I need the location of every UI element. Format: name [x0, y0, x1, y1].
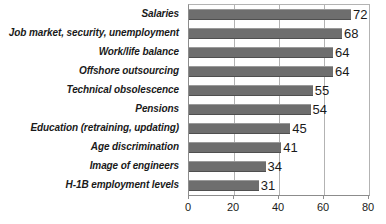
- category-label-row: Offshore outsourcing: [0, 61, 183, 80]
- axis-tick-mark: [278, 195, 279, 199]
- bar: [189, 142, 281, 153]
- axis-tick-mark: [233, 195, 234, 199]
- category-label: Image of engineers: [90, 160, 179, 171]
- category-label: Age discrimination: [91, 141, 179, 152]
- plot-area: 72686464555445413431: [188, 4, 370, 196]
- bar: [189, 161, 266, 172]
- category-label: Work/life balance: [99, 46, 179, 57]
- category-label-row: Job market, security, unemployment: [0, 23, 183, 42]
- axis-tick-label: 40: [272, 201, 284, 213]
- bar-row: 64: [189, 43, 369, 62]
- category-label-row: Salaries: [0, 4, 183, 23]
- category-label: Job market, security, unemployment: [9, 27, 179, 38]
- bar-value-label: 31: [261, 179, 275, 192]
- bars-layer: 72686464555445413431: [189, 5, 369, 195]
- category-label-row: Work/life balance: [0, 42, 183, 61]
- bar-chart: SalariesJob market, security, unemployme…: [0, 0, 386, 224]
- category-label-row: Image of engineers: [0, 156, 183, 175]
- category-label-row: H-1B employment levels: [0, 175, 183, 194]
- bar-value-label: 64: [335, 46, 349, 59]
- bar-value-label: 55: [315, 84, 329, 97]
- axis-tick-mark: [323, 195, 324, 199]
- bar-row: 68: [189, 24, 369, 43]
- bar-value-label: 64: [335, 65, 349, 78]
- bar-value-label: 72: [353, 8, 367, 21]
- bar: [189, 28, 342, 39]
- category-label: Technical obsolescence: [67, 84, 179, 95]
- axis-tick-label: 20: [227, 201, 239, 213]
- bar: [189, 104, 311, 115]
- category-label: H-1B employment levels: [66, 179, 179, 190]
- axis-tick-label: 0: [185, 201, 191, 213]
- bar-row: 55: [189, 81, 369, 100]
- category-label: Education (retraining, updating): [31, 122, 179, 133]
- bar: [189, 123, 290, 134]
- bar: [189, 66, 333, 77]
- bar: [189, 85, 313, 96]
- bar-value-label: 68: [344, 27, 358, 40]
- category-label-row: Technical obsolescence: [0, 80, 183, 99]
- bar-value-label: 45: [292, 122, 306, 135]
- bar-row: 45: [189, 119, 369, 138]
- category-label: Salaries: [141, 8, 179, 19]
- category-label-row: Education (retraining, updating): [0, 118, 183, 137]
- category-label: Offshore outsourcing: [79, 65, 179, 76]
- bar: [189, 180, 259, 191]
- bar-value-label: 34: [268, 160, 282, 173]
- category-label-row: Pensions: [0, 99, 183, 118]
- bar: [189, 9, 351, 20]
- axis-tick-label: 80: [362, 201, 374, 213]
- bar-row: 34: [189, 157, 369, 176]
- axis-tick-mark: [368, 195, 369, 199]
- bar-row: 41: [189, 138, 369, 157]
- category-label-row: Age discrimination: [0, 137, 183, 156]
- bar-row: 64: [189, 62, 369, 81]
- bar-value-label: 54: [313, 103, 327, 116]
- bar-row: 54: [189, 100, 369, 119]
- category-label: Pensions: [135, 103, 179, 114]
- bar-row: 31: [189, 176, 369, 195]
- bar-value-label: 41: [283, 141, 297, 154]
- category-axis: SalariesJob market, security, unemployme…: [0, 4, 183, 194]
- value-axis: 020406080: [188, 195, 369, 224]
- bar: [189, 47, 333, 58]
- axis-tick-mark: [188, 195, 189, 199]
- bar-row: 72: [189, 5, 369, 24]
- axis-tick-label: 60: [317, 201, 329, 213]
